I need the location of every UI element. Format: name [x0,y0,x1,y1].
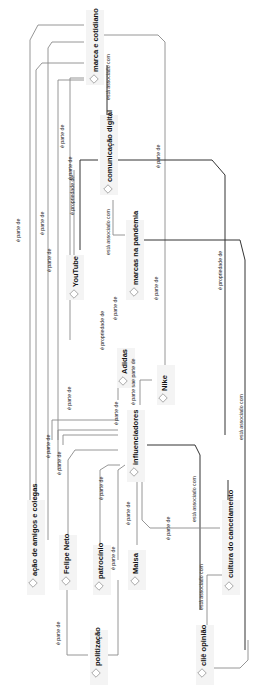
edge-label: é parte de [56,452,62,475]
edge-label: é parte de [165,517,171,540]
svg-text:Nike: Nike [160,375,169,391]
edge-label: é parte de [98,477,104,500]
svg-text:YouTube: YouTube [71,256,80,287]
edge-label: é parte de [112,297,118,320]
svg-text:Felipe Neto: Felipe Neto [62,533,71,574]
svg-text:marca e cotidiano: marca e cotidiano [91,8,100,72]
node-clie-opiniao[interactable]: cliê opinião [196,624,214,685]
node-cultura-do-cancelamento[interactable]: cultura do cancelamento [222,489,240,595]
node-maisa[interactable]: Maisa [128,550,146,590]
edge-label: é parte sae parte de [130,358,136,405]
svg-text:politização: politização [93,627,102,666]
node-acao-de-amigos-e-colegas[interactable]: ação de amigos e colegas [27,483,45,595]
svg-text:influenciadores: influenciadores [131,410,140,465]
edge-label: está associado com [198,564,204,610]
edge-label: é parte de [59,125,65,148]
svg-text:ação de amigos e colegas: ação de amigos e colegas [30,483,39,576]
diagram-canvas: marca e cotidiano comunicação digital Yo… [0,0,261,694]
edge-label: é parte de [125,502,131,525]
edge-label: é parte de [153,277,159,300]
edge-label: é parte de [155,145,161,168]
edge-label: é propriedade de [217,251,223,290]
edge-label: é propriedade de [69,176,75,215]
node-comunicacao-digital[interactable]: comunicação digital [100,110,118,195]
edge-label: está associado com [105,209,111,255]
svg-text:marcas na pandemia: marcas na pandemia [131,210,140,285]
node-marca-e-cotidiano[interactable]: marca e cotidiano [86,8,104,85]
svg-text:cliê opinião: cliê opinião [199,624,208,666]
edge-label: é parte de [66,387,72,410]
edge-label: está associado com [105,54,111,100]
node-nike[interactable]: Nike [157,365,175,405]
edge-label: é parte de [55,622,61,645]
edge-label: é parte de [113,402,119,425]
concept-map: marca e cotidiano comunicação digital Yo… [0,0,261,694]
edge-label: é propriedade de [99,311,105,350]
edge-label: é parte de [110,547,116,570]
svg-text:comunicação digital: comunicação digital [105,110,114,182]
node-marcas-na-pandemia[interactable]: marcas na pandemia [126,210,144,300]
node-youtube[interactable]: YouTube [66,255,84,300]
edge-label: está associado com [191,476,197,522]
svg-text:patrocínio: patrocínio [96,542,105,579]
node-influenciadores[interactable]: influenciadores [127,410,145,482]
node-patrocinio[interactable]: patrocínio [93,542,111,595]
nodes: marca e cotidiano comunicação digital Yo… [27,8,240,685]
edge-label: é parte de [39,212,45,235]
svg-text:Maisa: Maisa [131,552,140,574]
svg-text:Adidas: Adidas [120,349,129,374]
node-politizacao[interactable]: politização [90,627,108,685]
edge-label: é parte de [45,435,51,458]
edge-label: é parte de [15,219,21,242]
node-felipe-neto[interactable]: Felipe Neto [59,533,77,590]
edge-label: é parte de [46,249,52,272]
edge-label: está associado com [238,394,244,440]
svg-text:cultura do cancelamento: cultura do cancelamento [226,489,235,578]
